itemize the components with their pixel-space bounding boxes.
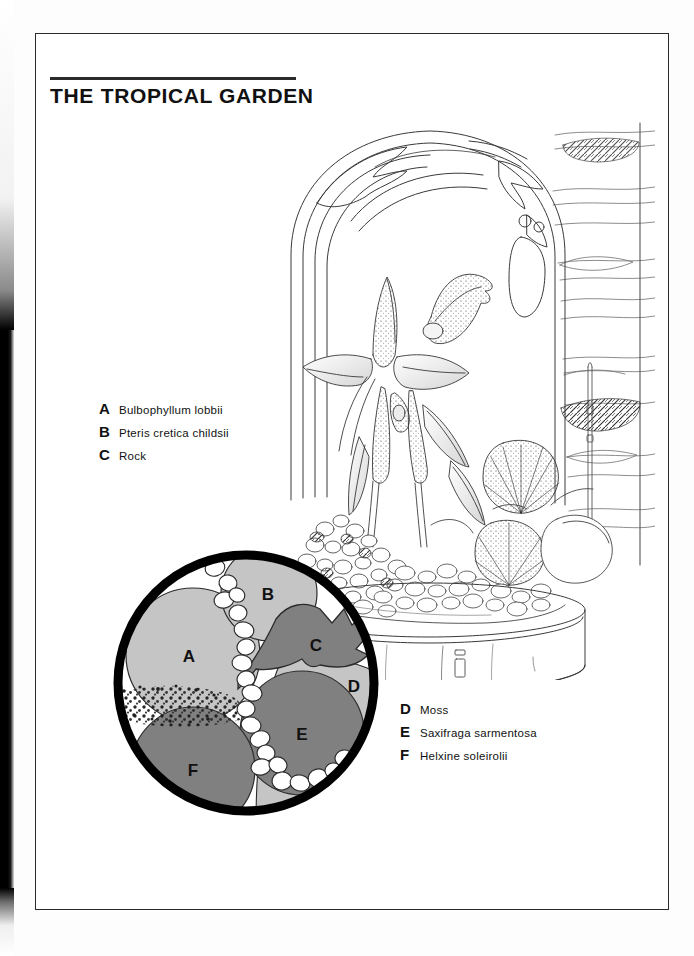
planting-plan-detail: A B C D E F [106, 543, 386, 824]
scan-edge-top-fade [0, 0, 14, 330]
legend-key-C: C [99, 446, 119, 463]
saxifraga-leaf-mid [475, 520, 545, 585]
detail-label-D: D [348, 677, 360, 696]
scan-edge-bottom-fade [0, 888, 14, 956]
saxifraga-leaf-outline [541, 515, 612, 583]
upper-plant-key: A Bulbophyllum lobbii B Pteris cretica c… [99, 400, 229, 469]
legend-item: D Moss [400, 700, 537, 717]
legend-item: C Rock [99, 446, 229, 463]
legend-label-B: Pteris cretica childsii [119, 427, 229, 439]
title-word-3: GARDEN [219, 84, 314, 107]
title-word-2: TROPICAL [101, 84, 213, 107]
legend-item: E Saxifraga sarmentosa [400, 723, 537, 740]
legend-label-F: Helxine soleirolii [420, 750, 508, 762]
legend-key-B: B [99, 423, 119, 440]
detail-label-F: F [188, 761, 198, 780]
legend-key-A: A [99, 400, 119, 417]
legend-key-F: F [400, 746, 420, 763]
orchid-bulbophyllum-lobbii [303, 274, 492, 547]
shelf-dark-foliage [561, 138, 640, 431]
legend-item: B Pteris cretica childsii [99, 423, 229, 440]
legend-label-E: Saxifraga sarmentosa [420, 727, 537, 739]
scanned-page: THETROPICAL GARDEN [0, 0, 694, 956]
legend-key-E: E [400, 723, 420, 740]
legend-label-A: Bulbophyllum lobbii [119, 404, 223, 416]
legend-label-D: Moss [420, 704, 448, 716]
title-underline [50, 77, 296, 80]
title-word-1: THE [50, 84, 94, 107]
legend-item: A Bulbophyllum lobbii [99, 400, 229, 417]
ground-cover-key: D Moss E Saxifraga sarmentosa F Helxine … [400, 700, 537, 769]
detail-label-B: B [262, 585, 274, 604]
legend-key-D: D [400, 700, 420, 717]
detail-label-A: A [183, 647, 195, 666]
legend-label-C: Rock [119, 450, 146, 462]
legend-item: F Helxine soleirolii [400, 746, 537, 763]
detail-label-E: E [296, 725, 307, 744]
saxifraga-leaf-dark [483, 440, 559, 513]
detail-label-C: C [310, 636, 322, 655]
